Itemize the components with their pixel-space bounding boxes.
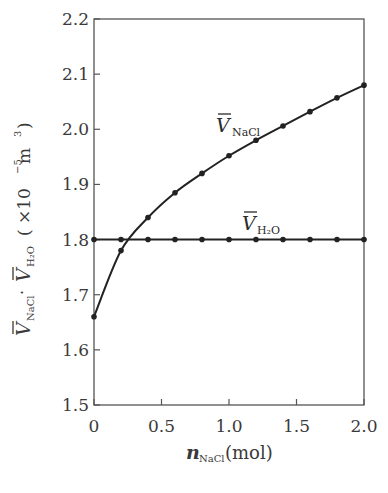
- x-tick-label: 0: [89, 416, 100, 436]
- data-point-nacl: [91, 314, 97, 320]
- y-axis-label-separator: ·: [13, 290, 32, 295]
- data-point-nacl: [361, 82, 367, 88]
- data-point-h2o: [118, 237, 124, 243]
- x-tick-label: 0.5: [148, 416, 175, 436]
- series-label-h2o-main: V: [242, 212, 258, 234]
- plot-border: [94, 19, 364, 405]
- data-point-nacl: [199, 171, 205, 177]
- y-tick-label: 1.7: [62, 285, 89, 305]
- series-label-nacl-sub: NaCl: [232, 126, 261, 139]
- data-point-nacl: [334, 95, 340, 101]
- data-point-nacl: [172, 190, 178, 196]
- data-point-nacl: [280, 123, 286, 129]
- data-point-nacl: [145, 215, 151, 221]
- series-label-nacl-main: V: [216, 114, 232, 136]
- data-point-nacl: [307, 109, 313, 115]
- data-point-h2o: [334, 237, 340, 243]
- y-tick-label: 2.0: [62, 119, 89, 139]
- data-point-nacl: [118, 248, 124, 254]
- data-point-nacl: [226, 153, 232, 159]
- data-point-h2o: [226, 237, 232, 243]
- series-label-h2o: V H₂O: [242, 212, 280, 237]
- plot-frame: [94, 19, 364, 405]
- x-axis-label-unit: (mol): [225, 442, 273, 463]
- y-axis-label: V NaCl · V H₂O ( ×10 −5 m 3 ): [12, 122, 36, 336]
- y-axis-label-unit-close: ): [14, 122, 34, 129]
- data-point-h2o: [280, 237, 286, 243]
- y-tick-label: 1.6: [62, 340, 89, 360]
- y-tick-label: 1.5: [62, 395, 89, 415]
- data-point-h2o: [172, 237, 178, 243]
- y-axis-label-unit-prefix: ( ×10: [14, 188, 34, 236]
- y-tick-label: 1.9: [62, 174, 89, 194]
- y-axis-label-v1: V: [12, 320, 34, 336]
- y-axis-label-unit-base: m: [14, 148, 34, 164]
- y-axis-label-unit-pow: 3: [12, 131, 23, 137]
- series-label-h2o-sub: H₂O: [257, 224, 280, 237]
- x-axis-label-sub: NaCl: [199, 453, 225, 464]
- x-tick-label: 1.5: [283, 416, 310, 436]
- x-axis-label-main: n: [186, 441, 200, 463]
- series-label-nacl: V NaCl: [216, 114, 261, 139]
- partial-molar-volume-chart: 1.51.61.71.81.92.02.12.2 00.51.01.52.0 V…: [0, 0, 388, 493]
- y-tick-label: 1.8: [62, 230, 89, 250]
- y-axis-label-v2-sub: H₂O: [25, 246, 36, 267]
- y-axis-label-v2: V: [12, 266, 34, 282]
- x-tick-label: 1.0: [215, 416, 242, 436]
- data-point-h2o: [307, 237, 313, 243]
- y-tick-label: 2.1: [62, 64, 89, 84]
- data-point-h2o: [361, 237, 367, 243]
- x-tick-label: 2.0: [350, 416, 377, 436]
- data-point-h2o: [199, 237, 205, 243]
- data-point-h2o: [91, 237, 97, 243]
- data-point-h2o: [145, 237, 151, 243]
- x-axis-label: n NaCl (mol): [186, 441, 273, 464]
- y-axis-label-v1-sub: NaCl: [25, 295, 36, 321]
- y-tick-label: 2.2: [62, 9, 89, 29]
- data-point-h2o: [253, 237, 259, 243]
